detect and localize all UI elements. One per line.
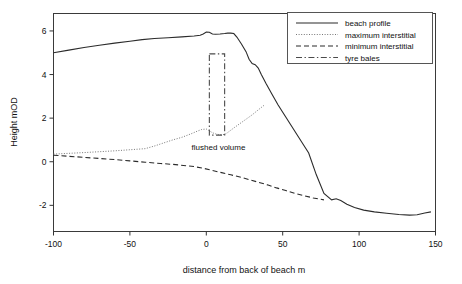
- chart-figure: 6420-2 -100-50050100150 flushed volume H…: [0, 0, 462, 284]
- series-minimum-interstitial: [54, 155, 324, 200]
- annotation-flushed-volume: flushed volume: [192, 143, 246, 152]
- chart-legend: beach profilemaximum interstitialminimum…: [288, 13, 433, 64]
- y-tick-label: 6: [42, 26, 47, 36]
- x-tick-label: 0: [204, 239, 209, 249]
- x-tick-label: -100: [45, 239, 62, 249]
- y-axis-title: Height mOD: [9, 97, 19, 147]
- series-tyre-bales-rect: [209, 54, 224, 135]
- legend-label: minimum interstitial: [345, 42, 414, 51]
- x-tick-label: 150: [428, 239, 442, 249]
- legend-label: tyre bales: [345, 54, 380, 63]
- y-tick-label: 2: [42, 113, 47, 123]
- y-tick-label: -2: [39, 200, 47, 210]
- y-axis-ticks: 6420-2: [39, 26, 54, 210]
- y-tick-label: 0: [42, 157, 47, 167]
- x-tick-label: 50: [278, 239, 288, 249]
- y-tick-label: 4: [42, 70, 47, 80]
- legend-label: maximum interstitial: [345, 31, 416, 40]
- x-tick-label: -50: [124, 239, 137, 249]
- legend-label: beach profile: [345, 19, 391, 28]
- x-tick-label: 100: [352, 239, 366, 249]
- x-axis-title: distance from back of beach m: [183, 265, 306, 275]
- x-axis-ticks: -100-50050100150: [45, 232, 443, 249]
- beach-profile-chart-svg: 6420-2 -100-50050100150 flushed volume H…: [0, 0, 462, 284]
